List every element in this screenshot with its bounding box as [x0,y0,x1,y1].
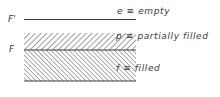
legend-empty: e ≡ empty [117,6,170,16]
legend-partially-filled: p ≡ partially filled [116,31,209,41]
legend-filled: f ≡ filled [116,63,160,73]
top-level-label: F' [8,14,16,24]
mid-level-label: F [9,44,14,54]
band-structure-diagram: F' F e ≡ empty p ≡ partially filled f ≡ … [0,0,220,97]
diagram-graphics [0,0,220,97]
